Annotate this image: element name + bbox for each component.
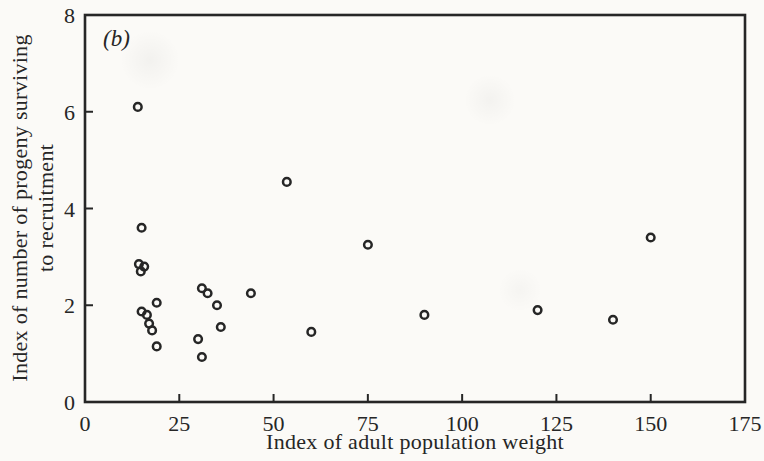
data-point xyxy=(194,335,202,343)
data-point xyxy=(137,268,145,276)
data-point xyxy=(213,302,221,310)
data-point xyxy=(247,289,255,297)
y-axis-label-line1: Index of number of progeny surviving xyxy=(7,0,33,418)
y-tick-label: 4 xyxy=(64,197,75,222)
data-point xyxy=(308,328,316,336)
plot-frame xyxy=(85,15,745,402)
data-point xyxy=(204,289,212,297)
data-point xyxy=(609,316,617,324)
y-axis-label-line2: to recruitment xyxy=(33,0,59,418)
data-point xyxy=(283,178,291,186)
data-point xyxy=(148,327,156,335)
data-point xyxy=(217,323,225,331)
data-point xyxy=(421,311,429,319)
y-tick-label: 8 xyxy=(64,3,75,28)
y-axis-label: Index of number of progeny surviving to … xyxy=(7,0,59,418)
data-point xyxy=(153,299,161,307)
y-tick-label: 0 xyxy=(64,390,75,415)
data-point xyxy=(198,353,206,361)
y-tick-label: 6 xyxy=(64,100,75,125)
data-point xyxy=(364,241,372,249)
data-point xyxy=(647,234,655,242)
scatter-plot: 025507510012515017502468 xyxy=(0,0,764,461)
data-point xyxy=(534,306,542,314)
y-tick-label: 2 xyxy=(64,293,75,318)
data-point xyxy=(143,311,151,319)
data-point xyxy=(138,224,146,232)
x-axis-label: Index of adult population weight xyxy=(85,429,745,455)
figure-panel: 025507510012515017502468 Index of number… xyxy=(0,0,764,461)
panel-label: (b) xyxy=(103,26,130,52)
data-point xyxy=(134,103,142,111)
data-point xyxy=(153,343,161,351)
